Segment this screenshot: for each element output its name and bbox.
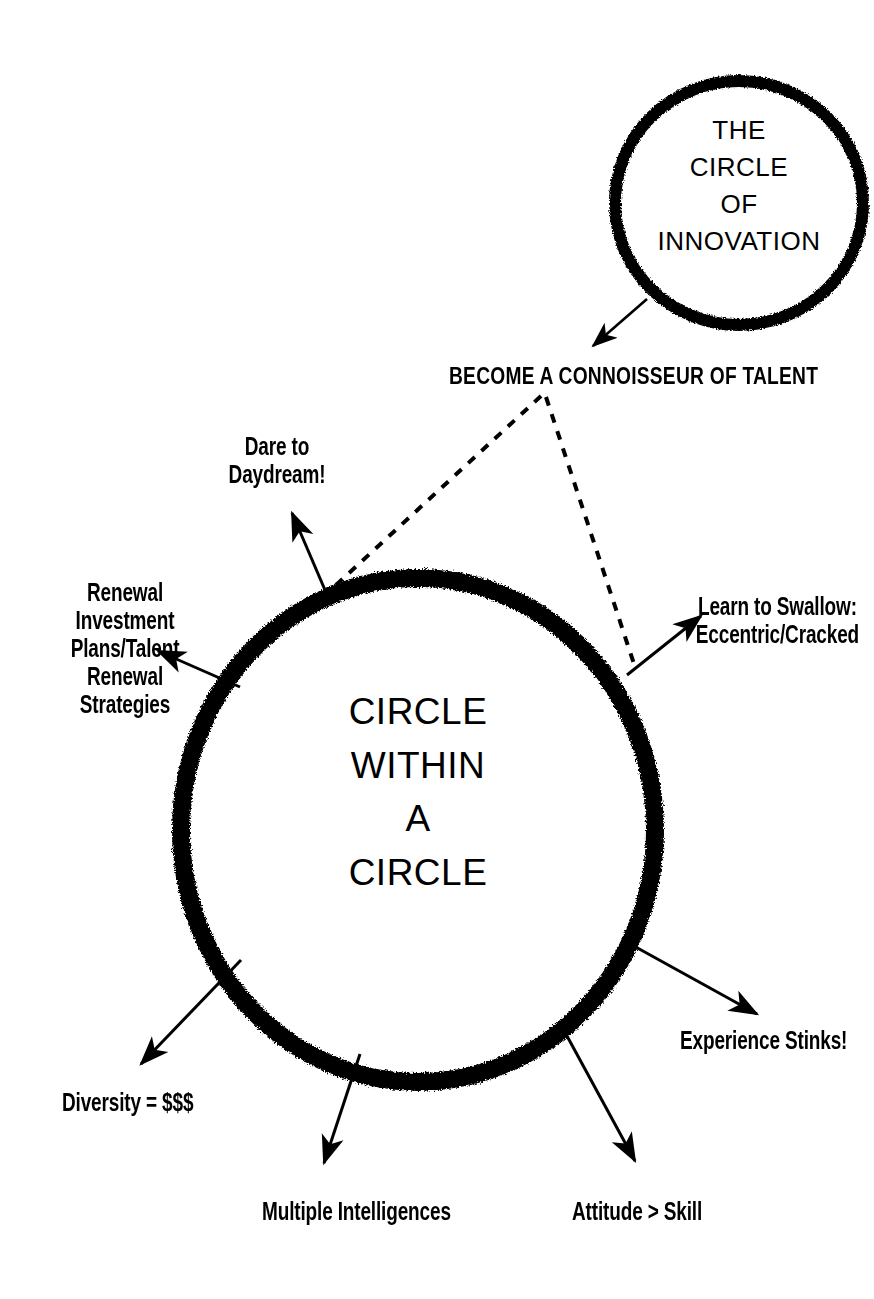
spoke-label-learn-to-swallow: Learn to Swallow: Eccentric/Cracked	[690, 592, 865, 648]
spoke-label-renewal-investment-plans: Renewal Investment Plans/Talent Renewal …	[68, 578, 182, 718]
spoke-label-diversity: Diversity = $$$	[62, 1088, 222, 1116]
diagram-canvas: THE CIRCLE OF INNOVATION BECOME A CONNOI…	[0, 0, 874, 1299]
spoke-label-multiple-intelligences: Multiple Intelligences	[262, 1197, 460, 1225]
arrow-attitude-skill	[567, 1036, 635, 1161]
spoke-label-experience-stinks: Experience Stinks!	[680, 1026, 855, 1054]
big-circle-label: CIRCLE WITHIN A CIRCLE	[298, 685, 538, 900]
arrow-experience-stinks	[623, 940, 757, 1014]
become-a-connoisseur-of-talent-label: BECOME A CONNOISSEUR OF TALENT	[449, 362, 818, 390]
spoke-label-dare-to-daydream: Dare to Daydream!	[228, 432, 327, 488]
small-circle-label: THE CIRCLE OF INNOVATION	[614, 112, 864, 260]
spoke-label-attitude-skill: Attitude > Skill	[572, 1197, 724, 1225]
dashed-talent-to-circle-left	[323, 396, 541, 597]
arrow-diversity	[141, 960, 241, 1064]
arrow-dare-to-daydream	[292, 513, 331, 604]
arrow-innovation-to-talent	[593, 299, 647, 346]
